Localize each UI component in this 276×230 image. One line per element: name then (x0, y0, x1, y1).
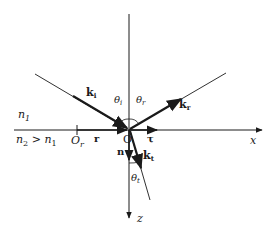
r-vector-label: r (94, 133, 100, 144)
incident-vector-label: ki (86, 86, 97, 100)
reflected-angle-label: θr (136, 94, 146, 107)
reflected-vector-label: kr (179, 98, 191, 112)
diagram-svg: n1 n2 > n1 Or r O τ x z n ki kr kt θi θr… (0, 0, 276, 230)
transmitted-angle-arc (129, 162, 139, 163)
medium-2-label: n2 > n1 (16, 133, 57, 148)
incident-angle-label: θi (114, 94, 122, 107)
ref-origin-label: Or (71, 134, 85, 149)
transmitted-vector-label: kt (143, 149, 155, 163)
normal-vector-label: n (117, 146, 125, 157)
reflected-angle-arc (129, 119, 139, 124)
z-axis-label: z (136, 212, 143, 225)
x-axis-label: x (250, 134, 257, 147)
origin-label: O (123, 133, 132, 146)
medium-1-label: n1 (18, 108, 30, 123)
diagram-canvas: n1 n2 > n1 Or r O τ x z n ki kr kt θi θr… (0, 0, 276, 230)
tau-vector-label: τ (147, 133, 154, 144)
transmitted-angle-label: θt (131, 172, 140, 185)
